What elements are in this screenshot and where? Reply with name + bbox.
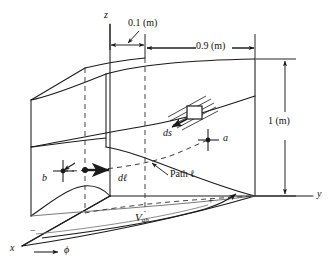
dim-leader-01 [128,31,139,43]
axis-label-y: y [317,189,321,199]
point-label-b: b [42,173,47,183]
voltage-label: Vab [135,212,149,224]
point-label-a: a [223,133,228,143]
axis-label-x: x [10,243,14,253]
axis-label-z: z [104,10,108,20]
figure-canvas: z y x ϕ 0.1 (m) 0.9 (m) 1 (m) a b Path ℓ… [0,0,332,269]
dl-start-dot [82,167,87,172]
path-label-leader [152,163,168,175]
axis-label-phi: ϕ [64,245,69,255]
vab-arc-inner [36,205,208,234]
voltage-symbol: V [135,211,142,223]
inner-top-curve [85,58,145,68]
dimension-label-inner-gap: 0.1 (m) [128,18,157,28]
voltage-subscript: ab [142,216,149,224]
polarity-plus: + [208,196,214,206]
ds-element-square [187,106,202,119]
dimension-label-height: 1 (m) [268,116,290,126]
b-point-dot [61,169,66,174]
dl-vector-label: dℓ⃗ [118,173,135,183]
b-leader [64,163,75,170]
dimension-label-outer-span: 0.9 (m) [196,41,225,51]
inner-front-curve [31,138,106,147]
ds-vector-label: ds [163,128,172,138]
left-face-bottom [31,186,110,216]
outer-top-edge [106,59,255,74]
top-left-slant [31,68,85,100]
path-label: Path ℓ [170,169,195,179]
mid-sheet-curve [31,96,255,147]
polarity-minus: − [30,226,36,236]
a-point-dot [206,138,211,143]
